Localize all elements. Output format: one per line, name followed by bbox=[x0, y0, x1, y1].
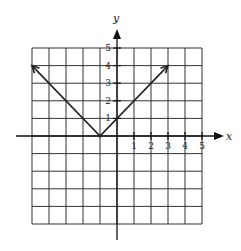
x-tick-label: 5 bbox=[199, 141, 205, 151]
x-axis-arrow-icon bbox=[214, 132, 224, 140]
y-tick-label: 3 bbox=[105, 78, 111, 88]
y-axis-arrow-icon bbox=[113, 29, 121, 39]
x-tick-label: 2 bbox=[148, 141, 154, 151]
y-tick-label: 1 bbox=[105, 113, 111, 123]
axes bbox=[16, 29, 224, 240]
x-tick-label: 4 bbox=[182, 141, 188, 151]
x-tick-label: 3 bbox=[165, 141, 171, 151]
coordinate-plane: 1234512345 x y bbox=[0, 0, 241, 251]
y-tick-label: 2 bbox=[105, 96, 111, 106]
tick-labels: 1234512345 bbox=[105, 43, 205, 151]
y-tick-label: 5 bbox=[105, 43, 111, 53]
x-tick-label: 1 bbox=[131, 141, 137, 151]
x-axis-label: x bbox=[226, 130, 233, 143]
y-axis-label: y bbox=[112, 12, 120, 25]
y-tick-label: 4 bbox=[105, 61, 111, 71]
vertex-point bbox=[98, 134, 101, 137]
